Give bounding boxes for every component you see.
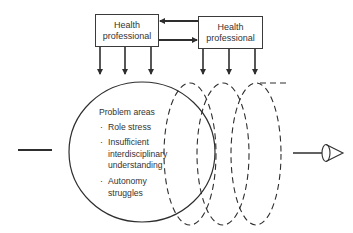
- diagram-canvas: [0, 0, 353, 233]
- problem-item-text: interdisciplinary: [108, 149, 167, 161]
- problem-item-autonomy-struggles: · Autonomy struggles: [99, 176, 167, 199]
- box-label-line1: Health: [217, 22, 243, 33]
- problem-item-text: understanding: [108, 160, 167, 172]
- box-label-line2: professional: [103, 31, 152, 42]
- problem-item-text: Role stress: [108, 122, 167, 134]
- problem-areas-title: Problem areas: [99, 107, 167, 119]
- problem-item-text: struggles: [108, 188, 167, 200]
- problem-item-insufficient-understanding: · Insufficient interdisciplinary underst…: [99, 137, 167, 172]
- health-professional-box-left: Health professional: [95, 14, 159, 47]
- bullet-icon: ·: [100, 122, 103, 134]
- box-label-line1: Health: [114, 20, 140, 31]
- bullet-icon: ·: [100, 176, 103, 188]
- dashed-loop-3: [231, 83, 281, 225]
- dashed-loop-1: [164, 83, 216, 225]
- problem-item-role-stress: · Role stress: [99, 122, 167, 134]
- health-professional-box-right: Health professional: [198, 16, 263, 49]
- box-label-line2: professional: [206, 33, 255, 44]
- dashed-loop-2: [197, 83, 249, 225]
- problem-areas-list: Problem areas · Role stress · Insufficie…: [99, 107, 167, 203]
- problem-item-text: Insufficient: [108, 137, 167, 149]
- bullet-icon: ·: [100, 137, 103, 149]
- problem-item-text: Autonomy: [108, 176, 167, 188]
- eye-icon: [322, 145, 343, 162]
